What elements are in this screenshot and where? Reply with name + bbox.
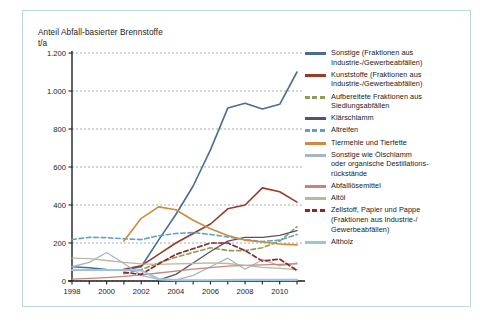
legend-item-label: Abfalllösemittel (331, 181, 381, 191)
y-tick-label: 400 (53, 201, 66, 210)
series-line (159, 231, 297, 280)
legend-swatch (305, 154, 326, 157)
legend-item-label: Zellstoff, Papier und Pappe(Fraktionen a… (331, 205, 420, 234)
legend-swatch (305, 96, 326, 99)
y-tick-label: 0 (62, 277, 66, 286)
legend-item-label: Sonstige (Fraktionen ausIndustrie-/Gewer… (331, 48, 422, 67)
series-line (72, 270, 297, 280)
legend-item-label: Klärschlamm (331, 113, 374, 123)
series-lines (72, 72, 297, 280)
legend-item-label: Tiermehle und Tierfette (331, 138, 407, 148)
x-tick-label: 2000 (98, 287, 115, 296)
x-tick-label: 2008 (237, 287, 254, 296)
legend-item-label: Altholz (331, 237, 353, 247)
legend-item[interactable]: Altholz (305, 237, 470, 247)
legend-item[interactable]: Zellstoff, Papier und Pappe(Fraktionen a… (305, 205, 470, 234)
legend-swatch (305, 117, 326, 120)
legend-item[interactable]: Klärschlamm (305, 113, 470, 123)
series-line (72, 264, 297, 279)
legend-swatch (305, 241, 326, 244)
legend-swatch (305, 52, 326, 55)
y-tick-label: 1.000 (47, 87, 66, 96)
chart-legend: Sonstige (Fraktionen ausIndustrie-/Gewer… (305, 48, 470, 249)
legend-item-label: Altreifen (331, 125, 358, 135)
series-line (72, 72, 297, 270)
legend-swatch (305, 129, 326, 132)
y-axis-ticks: 02004006008001.0001.200 (47, 49, 72, 286)
x-axis-ticks: 1998200020022004200620082010 (64, 281, 297, 296)
legend-item[interactable]: Altöl (305, 193, 470, 203)
y-tick-label: 1.200 (47, 49, 66, 58)
gridlines (72, 53, 302, 281)
axis-lines (68, 51, 305, 281)
legend-item[interactable]: Kunststoffe (Fraktionen ausIndustrie-/Ge… (305, 70, 470, 89)
legend-item[interactable]: Sonstige wie Ölschlammoder organische De… (305, 150, 470, 179)
legend-item-label: Aufbereitete Fraktionen ausSiedlungsabfä… (331, 92, 422, 111)
legend-swatch (305, 197, 326, 200)
legend-item-label: Altöl (331, 193, 345, 203)
legend-item-label: Kunststoffe (Fraktionen ausIndustrie-/Ge… (331, 70, 422, 89)
legend-swatch (305, 142, 326, 145)
legend-item[interactable]: Tiermehle und Tierfette (305, 138, 470, 148)
legend-item-label: Sonstige wie Ölschlammoder organische De… (331, 150, 429, 179)
x-tick-label: 2002 (133, 287, 150, 296)
legend-swatch (305, 209, 326, 212)
legend-swatch (305, 185, 326, 188)
y-tick-label: 200 (53, 239, 66, 248)
x-tick-label: 2010 (271, 287, 288, 296)
legend-item[interactable]: Altreifen (305, 125, 470, 135)
series-line (72, 253, 297, 281)
legend-swatch (305, 74, 326, 77)
legend-item[interactable]: Aufbereitete Fraktionen ausSiedlungsabfä… (305, 92, 470, 111)
y-tick-label: 600 (53, 163, 66, 172)
series-line (124, 207, 297, 245)
legend-item[interactable]: Abfalllösemittel (305, 181, 470, 191)
x-tick-label: 2004 (167, 287, 184, 296)
legend-item[interactable]: Sonstige (Fraktionen ausIndustrie-/Gewer… (305, 48, 470, 67)
y-tick-label: 800 (53, 125, 66, 134)
x-tick-label: 2006 (202, 287, 219, 296)
figure-root: Anteil Abfall-basierter Brennstoffe t/a … (0, 0, 480, 325)
x-tick-label: 1998 (64, 287, 81, 296)
